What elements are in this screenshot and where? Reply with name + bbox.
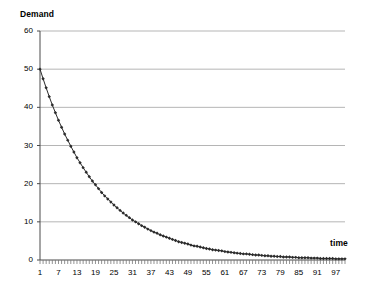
- data-point-marker: [232, 251, 235, 254]
- data-point-marker: [214, 248, 217, 251]
- data-point-marker: [223, 250, 226, 253]
- data-point-marker: [282, 255, 285, 258]
- x-tick-label: 1: [30, 268, 50, 277]
- data-point-marker: [211, 248, 214, 251]
- y-tick-label: 50: [11, 64, 33, 73]
- data-point-marker: [149, 229, 152, 232]
- data-point-marker: [57, 119, 60, 122]
- data-point-marker: [208, 247, 211, 250]
- data-point-marker: [183, 242, 186, 245]
- x-tick-label: 91: [307, 268, 327, 277]
- data-point-marker: [312, 256, 315, 259]
- data-point-marker: [257, 253, 260, 256]
- data-point-marker: [177, 240, 180, 243]
- data-point-marker: [226, 250, 229, 253]
- data-point-marker: [303, 256, 306, 259]
- y-tick-label: 40: [11, 102, 33, 111]
- data-point-marker: [162, 234, 165, 237]
- data-point-marker: [269, 254, 272, 257]
- series-line: [40, 69, 345, 259]
- data-point-marker: [54, 111, 57, 114]
- data-point-marker: [229, 251, 232, 254]
- data-point-marker: [199, 245, 202, 248]
- x-tick-label: 49: [178, 268, 198, 277]
- data-point-marker: [288, 255, 291, 258]
- y-tick-label: 0: [11, 255, 33, 264]
- data-point-marker: [171, 238, 174, 241]
- data-point-marker: [297, 256, 300, 259]
- data-point-marker: [186, 242, 189, 245]
- x-tick-label: 67: [233, 268, 253, 277]
- x-tick-label: 61: [215, 268, 235, 277]
- data-point-marker: [51, 103, 54, 106]
- data-point-marker: [245, 252, 248, 255]
- data-point-marker: [38, 67, 41, 70]
- data-point-marker: [48, 95, 51, 98]
- data-point-marker: [260, 254, 263, 257]
- x-tick-label: 19: [85, 268, 105, 277]
- data-point-marker: [180, 241, 183, 244]
- data-point-marker: [254, 253, 257, 256]
- data-point-marker: [291, 256, 294, 259]
- data-point-marker: [251, 253, 254, 256]
- x-tick-label: 85: [289, 268, 309, 277]
- data-point-marker: [242, 252, 245, 255]
- data-point-marker: [165, 235, 168, 238]
- data-point-marker: [192, 244, 195, 247]
- data-point-marker: [195, 245, 198, 248]
- data-point-marker: [263, 254, 266, 257]
- data-point-marker: [152, 230, 155, 233]
- data-point-marker: [174, 239, 177, 242]
- data-point-marker: [285, 255, 288, 258]
- data-point-marker: [306, 256, 309, 259]
- y-tick-label: 30: [11, 141, 33, 150]
- data-point-marker: [266, 254, 269, 257]
- x-tick-label: 31: [122, 268, 142, 277]
- data-point-marker: [220, 249, 223, 252]
- data-point-marker: [41, 77, 44, 80]
- data-point-marker: [300, 256, 303, 259]
- x-tick-label: 73: [252, 268, 272, 277]
- x-tick-label: 43: [159, 268, 179, 277]
- data-point-marker: [44, 86, 47, 89]
- data-point-marker: [168, 237, 171, 240]
- plot-area: [0, 0, 369, 291]
- x-tick-label: 79: [270, 268, 290, 277]
- data-point-marker: [235, 251, 238, 254]
- data-point-marker: [155, 232, 158, 235]
- data-point-marker: [276, 255, 279, 258]
- data-point-marker: [316, 256, 319, 259]
- data-point-marker: [217, 249, 220, 252]
- x-tick-label: 25: [104, 268, 124, 277]
- x-tick-label: 55: [196, 268, 216, 277]
- data-point-marker: [294, 256, 297, 259]
- demand-decay-chart: Demand time 6050403020100 17131925313743…: [0, 0, 369, 291]
- data-point-marker: [158, 233, 161, 236]
- data-point-marker: [248, 253, 251, 256]
- y-tick-label: 10: [11, 217, 33, 226]
- data-point-marker: [205, 247, 208, 250]
- data-point-marker: [63, 132, 66, 135]
- data-point-marker: [272, 254, 275, 257]
- data-point-marker: [189, 243, 192, 246]
- y-tick-label: 60: [11, 26, 33, 35]
- x-tick-label: 97: [326, 268, 346, 277]
- x-tick-label: 37: [141, 268, 161, 277]
- data-point-marker: [202, 246, 205, 249]
- data-point-marker: [309, 256, 312, 259]
- data-point-marker: [279, 255, 282, 258]
- data-point-marker: [60, 125, 63, 128]
- x-tick-label: 7: [48, 268, 68, 277]
- data-point-marker: [66, 138, 69, 141]
- data-point-marker: [239, 252, 242, 255]
- x-tick-label: 13: [67, 268, 87, 277]
- y-tick-label: 20: [11, 179, 33, 188]
